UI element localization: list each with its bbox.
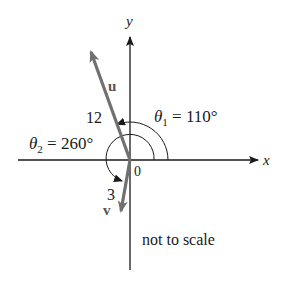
theta1-symbol: θ — [154, 107, 162, 126]
y-axis-label: y — [124, 13, 133, 29]
vector-v-magnitude: 3 — [107, 186, 115, 203]
vector-v-label: v — [103, 202, 111, 218]
vector-u-magnitude: 12 — [86, 109, 102, 126]
vector-v — [121, 160, 130, 211]
theta2-symbol: θ — [29, 134, 37, 153]
theta1-label: θ1 = 110° — [154, 107, 218, 128]
theta1-value: = 110° — [168, 107, 218, 126]
theta2-label: θ2 = 260° — [29, 134, 93, 155]
theta2-value: = 260° — [43, 134, 93, 153]
vector-u-label: u — [108, 78, 116, 94]
x-axis-label: x — [262, 152, 270, 168]
not-to-scale-note: not to scale — [142, 231, 215, 248]
origin-label: 0 — [134, 164, 141, 179]
vector-diagram: x y 0 u 12 v 3 θ1 = 110° θ2 = 260° not t… — [0, 0, 282, 282]
